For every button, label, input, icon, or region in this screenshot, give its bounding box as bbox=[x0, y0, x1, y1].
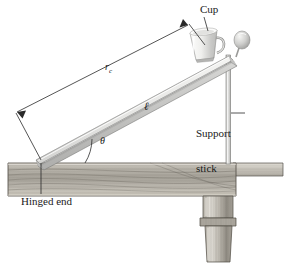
label-support-stick: Support stick bbox=[196, 104, 231, 199]
label-distance-to-cup: rc bbox=[105, 62, 112, 76]
label-hinged-end: Hinged end bbox=[21, 196, 72, 208]
label-cup: Cup bbox=[200, 4, 218, 16]
diagram-svg bbox=[0, 0, 290, 264]
table-top bbox=[8, 163, 283, 196]
table-leg bbox=[200, 196, 236, 262]
ball-knob bbox=[234, 31, 250, 57]
label-board-length: ℓ bbox=[144, 101, 149, 113]
label-distance-to-cup-subscript: c bbox=[109, 67, 112, 75]
figure-canvas: Cup Support stick Hinged end rc ℓ θ bbox=[0, 0, 290, 264]
label-support-stick-line1: Support bbox=[196, 128, 231, 140]
label-support-stick-line2: stick bbox=[196, 163, 231, 175]
label-angle-theta: θ bbox=[100, 136, 105, 147]
